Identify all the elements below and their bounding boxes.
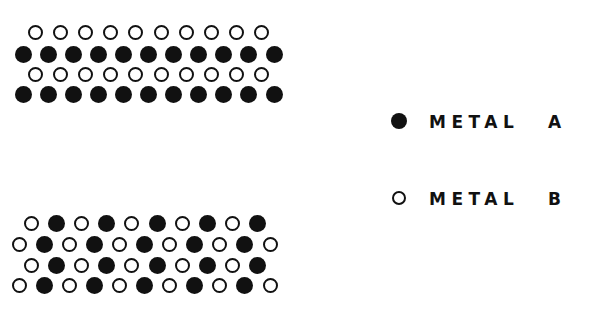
metal-b-atom-icon: [254, 25, 269, 40]
metal-b-atom-icon: [12, 278, 27, 293]
legend-label: METAL: [429, 112, 519, 132]
metal-a-atom-icon: [90, 86, 107, 103]
filled-circle-icon: [391, 113, 407, 129]
metal-a-atom-icon: [249, 215, 266, 232]
metal-a-atom-icon: [186, 236, 203, 253]
metal-a-atom-icon: [65, 46, 82, 63]
metal-a-atom-icon: [136, 236, 153, 253]
metal-a-atom-icon: [190, 46, 207, 63]
metal-a-atom-icon: [165, 46, 182, 63]
metal-b-atom-icon: [175, 258, 190, 273]
metal-a-atom-icon: [48, 257, 65, 274]
metal-a-atom-icon: [98, 257, 115, 274]
metal-b-atom-icon: [53, 25, 68, 40]
metal-a-atom-icon: [236, 236, 253, 253]
metal-a-atom-icon: [65, 86, 82, 103]
metal-b-atom-icon: [12, 237, 27, 252]
legend-item-metal-a: METAL A: [391, 113, 407, 129]
metal-b-atom-icon: [254, 67, 269, 82]
metal-a-atom-icon: [140, 46, 157, 63]
metal-b-atom-icon: [78, 25, 93, 40]
metal-a-atom-icon: [165, 86, 182, 103]
metal-b-atom-icon: [103, 25, 118, 40]
metal-b-atom-icon: [74, 216, 89, 231]
metal-a-atom-icon: [90, 46, 107, 63]
metal-a-atom-icon: [199, 257, 216, 274]
metal-b-atom-icon: [229, 25, 244, 40]
metal-a-atom-icon: [240, 46, 257, 63]
metal-b-atom-icon: [175, 216, 190, 231]
metal-a-atom-icon: [98, 215, 115, 232]
metal-b-atom-icon: [263, 237, 278, 252]
metal-a-atom-icon: [149, 215, 166, 232]
legend-item-metal-b: METAL B: [391, 190, 406, 206]
metal-b-atom-icon: [162, 237, 177, 252]
metal-a-atom-icon: [86, 236, 103, 253]
legend-label: METAL: [429, 189, 519, 209]
metal-b-atom-icon: [204, 25, 219, 40]
metal-b-atom-icon: [204, 67, 219, 82]
metal-a-atom-icon: [15, 46, 32, 63]
metal-a-atom-icon: [240, 86, 257, 103]
metal-a-atom-icon: [40, 46, 57, 63]
open-circle-icon: [392, 191, 406, 205]
metal-a-atom-icon: [249, 257, 266, 274]
metal-b-atom-icon: [212, 237, 227, 252]
metal-b-atom-icon: [28, 67, 43, 82]
metal-b-atom-icon: [263, 278, 278, 293]
metal-b-atom-icon: [24, 216, 39, 231]
metal-a-atom-icon: [149, 257, 166, 274]
metal-b-atom-icon: [154, 67, 169, 82]
metal-b-atom-icon: [179, 67, 194, 82]
metal-a-atom-icon: [48, 215, 65, 232]
metal-b-atom-icon: [103, 67, 118, 82]
metal-a-atom-icon: [215, 46, 232, 63]
metal-a-atom-icon: [115, 46, 132, 63]
metal-b-atom-icon: [78, 67, 93, 82]
metal-a-atom-icon: [266, 86, 283, 103]
metal-a-atom-icon: [186, 277, 203, 294]
metal-a-atom-icon: [266, 46, 283, 63]
metal-b-atom-icon: [112, 278, 127, 293]
metal-b-atom-icon: [53, 67, 68, 82]
legend-letter: A: [548, 112, 561, 132]
metal-b-atom-icon: [225, 258, 240, 273]
metal-b-atom-icon: [124, 216, 139, 231]
metal-b-atom-icon: [154, 25, 169, 40]
metal-b-atom-icon: [128, 25, 143, 40]
metal-a-atom-icon: [140, 86, 157, 103]
metal-b-atom-icon: [62, 237, 77, 252]
metal-b-atom-icon: [24, 258, 39, 273]
metal-a-atom-icon: [190, 86, 207, 103]
metal-b-atom-icon: [128, 67, 143, 82]
metal-a-atom-icon: [199, 215, 216, 232]
metal-b-atom-icon: [179, 25, 194, 40]
metal-b-atom-icon: [62, 278, 77, 293]
metal-b-atom-icon: [229, 67, 244, 82]
metal-a-atom-icon: [40, 86, 57, 103]
metal-b-atom-icon: [74, 258, 89, 273]
metal-a-atom-icon: [236, 277, 253, 294]
metal-b-atom-icon: [124, 258, 139, 273]
metal-a-atom-icon: [115, 86, 132, 103]
metal-a-atom-icon: [36, 236, 53, 253]
metal-a-atom-icon: [36, 277, 53, 294]
metal-b-atom-icon: [225, 216, 240, 231]
metal-a-atom-icon: [136, 277, 153, 294]
metal-b-atom-icon: [112, 237, 127, 252]
metal-b-atom-icon: [212, 278, 227, 293]
metal-b-atom-icon: [28, 25, 43, 40]
metal-a-atom-icon: [215, 86, 232, 103]
legend-letter: B: [548, 189, 561, 209]
metal-a-atom-icon: [86, 277, 103, 294]
metal-a-atom-icon: [15, 86, 32, 103]
metal-b-atom-icon: [162, 278, 177, 293]
